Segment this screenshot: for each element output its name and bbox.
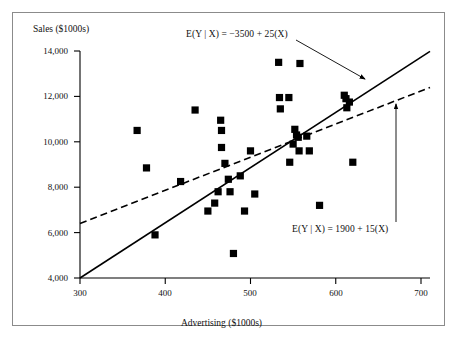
y-tick-label-4000: 4,000	[32, 273, 68, 283]
annotation-solid-line: E(Y | X) = −3500 + 25(X)	[186, 29, 288, 39]
data-point	[277, 105, 284, 112]
data-point	[230, 250, 237, 257]
annotation-dashed-line: E(Y | X) = 1900 + 15(X)	[292, 224, 388, 234]
regression-line-solid	[80, 51, 430, 278]
data-point	[295, 134, 302, 141]
data-point	[251, 190, 258, 197]
data-point	[316, 202, 323, 209]
data-point	[349, 159, 356, 166]
x-tick-label-500: 500	[233, 288, 267, 298]
data-point	[217, 117, 224, 124]
data-point	[285, 94, 292, 101]
data-point	[295, 147, 302, 154]
x-axis-title: Advertising ($1000s)	[181, 318, 262, 328]
data-point	[204, 207, 211, 214]
y-tick-label-14000: 14,000	[32, 46, 68, 56]
y-tick-label-6000: 6,000	[32, 228, 68, 238]
data-point	[134, 127, 141, 134]
data-point	[286, 159, 293, 166]
data-point	[247, 147, 254, 154]
y-tick-label-12000: 12,000	[32, 91, 68, 101]
x-axis-ticks	[80, 278, 421, 284]
x-tick-label-600: 600	[319, 288, 353, 298]
scatter-plot-figure: Sales ($1000s) Advertising ($1000s) 14,0…	[0, 0, 459, 347]
data-point	[211, 199, 218, 206]
data-point	[296, 60, 303, 67]
data-point	[226, 188, 233, 195]
regression-line-dashed	[80, 87, 430, 223]
data-point	[306, 147, 313, 154]
data-point	[276, 94, 283, 101]
data-point	[218, 144, 225, 151]
data-point	[237, 172, 244, 179]
data-point	[177, 178, 184, 185]
y-tick-label-8000: 8,000	[32, 182, 68, 192]
x-tick-label-400: 400	[148, 288, 182, 298]
data-point	[346, 98, 353, 105]
annotation-arrow-solid	[296, 40, 365, 79]
data-point	[290, 140, 297, 147]
x-tick-label-300: 300	[63, 288, 97, 298]
data-point	[241, 207, 248, 214]
x-tick-label-700: 700	[404, 288, 438, 298]
data-point	[275, 59, 282, 66]
y-axis-title: Sales ($1000s)	[33, 24, 89, 34]
data-point	[218, 127, 225, 134]
data-point	[303, 133, 310, 140]
data-point	[215, 188, 222, 195]
data-point	[225, 176, 232, 183]
data-point	[143, 164, 150, 171]
y-axis-ticks	[74, 51, 80, 278]
data-point	[221, 160, 228, 167]
y-tick-label-10000: 10,000	[32, 137, 68, 147]
data-point	[151, 231, 158, 238]
data-point	[191, 106, 198, 113]
